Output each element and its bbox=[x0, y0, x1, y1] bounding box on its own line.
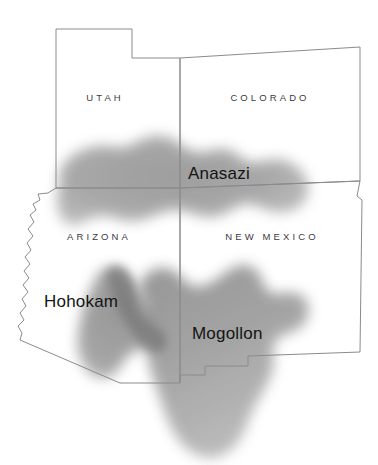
culture-label-anasazi: Anasazi bbox=[188, 164, 250, 183]
state-label-colorado: COLORADO bbox=[230, 92, 309, 103]
map-canvas: UTAH COLORADO ARIZONA NEW MEXICO Anasazi… bbox=[0, 0, 378, 465]
state-label-utah: UTAH bbox=[86, 92, 124, 103]
culture-label-hohokam: Hohokam bbox=[44, 292, 118, 311]
culture-area-mogollon bbox=[139, 265, 309, 458]
state-label-arizona: ARIZONA bbox=[67, 231, 131, 242]
culture-area-anasazi bbox=[57, 136, 308, 225]
culture-label-mogollon: Mogollon bbox=[192, 324, 263, 343]
state-label-new-mexico: NEW MEXICO bbox=[225, 231, 318, 242]
southwest-cultures-map: UTAH COLORADO ARIZONA NEW MEXICO Anasazi… bbox=[0, 0, 378, 465]
